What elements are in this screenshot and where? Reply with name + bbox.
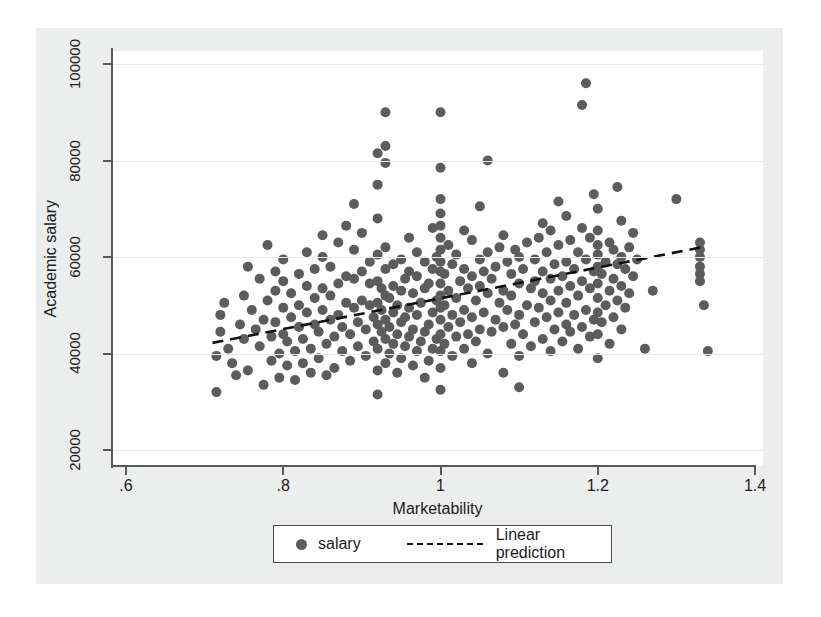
data-point — [593, 204, 603, 214]
x-tick-1.4 — [754, 467, 756, 475]
data-point — [577, 276, 587, 286]
data-point — [436, 363, 446, 373]
data-point — [467, 271, 477, 281]
data-point — [534, 233, 544, 243]
data-point — [451, 250, 461, 260]
data-point — [302, 247, 312, 257]
legend-entry-linear-prediction[interactable]: Linear prediction — [361, 526, 611, 562]
data-point — [380, 358, 390, 368]
data-point — [290, 346, 300, 356]
data-point — [286, 312, 296, 322]
data-point — [436, 315, 446, 325]
data-point — [612, 182, 622, 192]
data-point — [436, 107, 446, 117]
data-point — [357, 228, 367, 238]
data-point — [436, 233, 446, 243]
data-point — [274, 373, 284, 383]
data-point — [373, 390, 383, 400]
data-point — [542, 247, 552, 257]
data-point — [443, 286, 453, 296]
data-point — [593, 353, 603, 363]
data-point — [412, 346, 422, 356]
data-point — [585, 233, 595, 243]
data-point — [318, 230, 328, 240]
scatter-canvas — [112, 51, 763, 466]
data-point — [553, 197, 563, 207]
data-point — [565, 281, 575, 291]
data-point — [235, 320, 245, 330]
data-point — [325, 262, 335, 272]
data-point — [526, 341, 536, 351]
data-point — [439, 269, 449, 279]
data-point — [353, 317, 363, 327]
data-point — [243, 262, 253, 272]
data-point — [530, 254, 540, 264]
data-point — [518, 264, 528, 274]
data-point — [616, 324, 626, 334]
data-point — [471, 295, 481, 305]
data-point — [215, 310, 225, 320]
data-point — [227, 358, 237, 368]
data-point — [569, 310, 579, 320]
data-point — [695, 269, 705, 279]
y-tick-label-60000: 60000 — [66, 236, 83, 278]
data-point — [530, 317, 540, 327]
data-point — [314, 353, 324, 363]
x-tick-label-1.2: 1.2 — [587, 477, 609, 495]
data-point — [349, 199, 359, 209]
data-point — [550, 259, 560, 269]
data-point — [597, 269, 607, 279]
data-point — [538, 266, 548, 276]
data-point — [498, 322, 508, 332]
data-point — [412, 310, 422, 320]
gridline-y-20000 — [112, 450, 763, 451]
data-point — [286, 288, 296, 298]
data-point — [298, 358, 308, 368]
data-point — [459, 225, 469, 235]
data-point — [538, 288, 548, 298]
data-point — [553, 240, 563, 250]
data-point — [294, 300, 304, 310]
data-point — [577, 100, 587, 110]
data-point — [436, 385, 446, 395]
data-point — [703, 346, 713, 356]
data-point — [502, 305, 512, 315]
data-point — [463, 329, 473, 339]
data-point — [408, 288, 418, 298]
figure-scatter-salary-marketability: Academic salary 100000 80000 60000 40000… — [0, 0, 821, 617]
data-point — [424, 356, 434, 366]
data-point — [471, 336, 481, 346]
data-point — [447, 351, 457, 361]
data-point — [608, 312, 618, 322]
legend-entry-salary[interactable]: salary — [274, 535, 361, 553]
data-point — [514, 351, 524, 361]
data-point — [321, 370, 331, 380]
y-tick-40000 — [103, 353, 111, 355]
data-point — [357, 266, 367, 276]
data-point — [573, 344, 583, 354]
data-point — [459, 344, 469, 354]
data-point — [306, 344, 316, 354]
data-point — [270, 266, 280, 276]
data-point — [373, 365, 383, 375]
x-tick-label-1.4: 1.4 — [744, 477, 766, 495]
data-point — [443, 240, 453, 250]
data-point — [581, 254, 591, 264]
data-point — [400, 341, 410, 351]
data-point — [624, 288, 634, 298]
data-point — [345, 329, 355, 339]
gridline-y-80000 — [112, 161, 763, 162]
data-point — [412, 247, 422, 257]
data-point — [561, 257, 571, 267]
data-point — [263, 295, 273, 305]
plot-area — [112, 51, 763, 466]
data-point — [270, 286, 280, 296]
data-point — [522, 300, 532, 310]
data-point — [593, 250, 603, 260]
data-point — [612, 295, 622, 305]
data-point — [255, 341, 265, 351]
data-point — [593, 225, 603, 235]
data-point — [211, 387, 221, 397]
scatter-points — [211, 78, 712, 399]
data-point — [325, 291, 335, 301]
